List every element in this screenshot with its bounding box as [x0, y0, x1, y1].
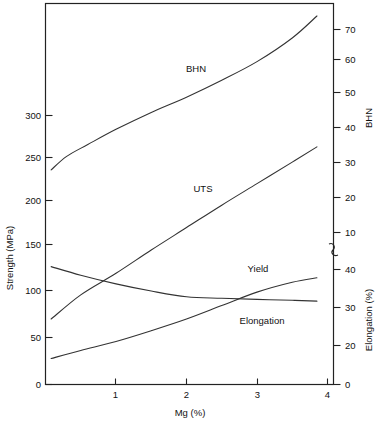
bhn-tick-label-20: 20: [345, 192, 356, 203]
curve-label-elongation: Elongation: [240, 315, 285, 326]
left-tick-label-50: 50: [30, 332, 41, 343]
curve-label-yield: Yield: [248, 263, 269, 274]
right-upper-axis-ticks: [334, 30, 341, 233]
bhn-tick-label-70: 70: [345, 24, 356, 35]
elong-tick-label-30: 30: [345, 302, 356, 313]
elong-tick-label-40: 40: [345, 264, 356, 275]
bhn-tick-label-10: 10: [345, 227, 356, 238]
right-lower-axis-tick-labels: 40 30 20 0: [345, 264, 356, 390]
left-tick-label-150: 150: [25, 239, 41, 250]
curve-bhn: [51, 16, 317, 170]
curve-label-uts: UTS: [194, 183, 213, 194]
bhn-tick-label-50: 50: [345, 87, 356, 98]
right-upper-axis-title: BHN: [363, 108, 374, 128]
curve-label-bhn: BHN: [186, 63, 206, 74]
bhn-tick-label-60: 60: [345, 54, 356, 65]
x-tick-label-4: 4: [325, 389, 330, 400]
x-axis-tick-labels: 1 2 3 4: [113, 389, 330, 400]
bhn-tick-label-40: 40: [345, 122, 356, 133]
curve-elongation: [51, 267, 317, 302]
chart-container: 300 250 200 150 100 50 0 Strength (MPa) …: [0, 0, 387, 423]
x-axis-title: Mg (%): [175, 407, 206, 418]
x-tick-label-2: 2: [184, 389, 189, 400]
left-tick-label-250: 250: [25, 152, 41, 163]
left-tick-label-300: 300: [25, 110, 41, 121]
left-axis-ticks: [46, 116, 53, 385]
left-axis-tick-labels: 300 250 200 150 100 50 0: [25, 110, 41, 390]
left-tick-label-0: 0: [36, 379, 41, 390]
right-lower-axis-ticks: [334, 270, 341, 385]
elong-tick-label-20: 20: [345, 340, 356, 351]
right-lower-axis-title: Elongation (%): [363, 289, 374, 351]
left-axis-title: Strength (MPa): [4, 226, 15, 290]
x-axis-ticks: [116, 379, 328, 385]
x-tick-label-3: 3: [255, 389, 260, 400]
left-tick-label-100: 100: [25, 285, 41, 296]
curve-uts: [51, 147, 317, 319]
left-tick-label-200: 200: [25, 195, 41, 206]
right-upper-axis-tick-labels: 70 60 50 40 30 20 10: [345, 24, 356, 238]
x-tick-label-1: 1: [113, 389, 118, 400]
plot-frame: [46, 4, 334, 385]
bhn-tick-label-30: 30: [345, 157, 356, 168]
chart-svg: 300 250 200 150 100 50 0 Strength (MPa) …: [0, 0, 387, 423]
elong-tick-label-0: 0: [345, 379, 350, 390]
